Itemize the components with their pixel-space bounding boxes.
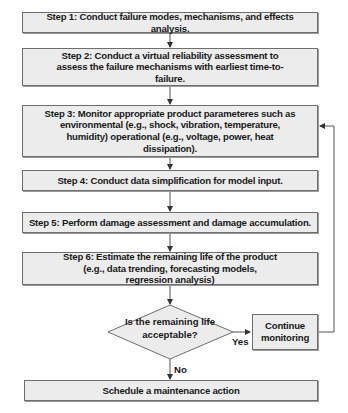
decision-label: Is the remaining life acceptable? — [120, 316, 220, 341]
step-6-box: Step 6: Estimate the remaining life of t… — [22, 252, 318, 285]
step-6-label: Step 6: Estimate the remaining life of t… — [61, 251, 279, 286]
step-5-label: Step 5: Perform damage assessment and da… — [29, 217, 311, 229]
step-2-box: Step 2: Conduct a virtual reliability as… — [22, 48, 318, 86]
yes-label: Yes — [232, 336, 249, 347]
step-4-box: Step 4: Conduct data simplification for … — [22, 170, 318, 191]
no-label: No — [174, 364, 187, 375]
step-3-box: Step 3: Monitor appropriate product para… — [22, 105, 318, 157]
step-3-label: Step 3: Monitor appropriate product para… — [39, 108, 301, 154]
step-5-box: Step 5: Perform damage assessment and da… — [22, 212, 318, 233]
step-2-label: Step 2: Conduct a virtual reliability as… — [53, 50, 287, 85]
continue-monitoring-label: Continue monitoring — [259, 320, 311, 345]
maintenance-action-box: Schedule a maintenance action — [24, 380, 318, 401]
continue-monitoring-box: Continue monitoring — [252, 314, 318, 350]
step-1-box: Step 1: Conduct failure modes, mechanism… — [22, 12, 318, 33]
step-4-label: Step 4: Conduct data simplification for … — [57, 175, 282, 187]
maintenance-action-label: Schedule a maintenance action — [102, 385, 239, 397]
step-1-label: Step 1: Conduct failure modes, mechanism… — [27, 11, 313, 34]
